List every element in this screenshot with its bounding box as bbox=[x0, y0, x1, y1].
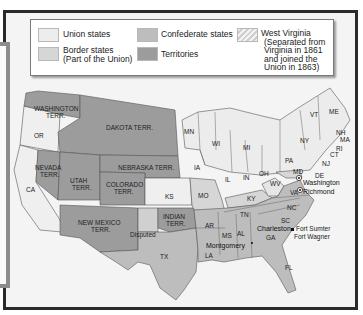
label-tn: TN bbox=[240, 211, 249, 218]
label-or: OR bbox=[34, 132, 44, 139]
label-fort-wagner: Fort Wagner bbox=[294, 233, 331, 241]
label-new-mexico-terr-2: TERR. bbox=[91, 226, 111, 233]
label-ga: GA bbox=[266, 234, 276, 241]
label-nevada-terr-2: TERR. bbox=[40, 171, 60, 178]
label-colorado-terr-2: TERR. bbox=[114, 188, 134, 195]
label-md: MD bbox=[293, 168, 303, 175]
us-map-1861: WASHINGTON TERR. DAKOTA TERR. NEBRASKA T… bbox=[0, 0, 363, 315]
label-fort-sumter: Fort Sumter bbox=[296, 225, 331, 232]
label-ia: IA bbox=[194, 164, 201, 171]
label-ca: CA bbox=[26, 186, 36, 193]
label-richmond-city: Richmond bbox=[303, 188, 335, 195]
label-il: IL bbox=[225, 176, 231, 183]
label-nebraska-terr: NEBRASKA TERR. bbox=[118, 164, 174, 171]
label-dakota-terr: DAKOTA TERR. bbox=[106, 124, 153, 131]
label-tx: TX bbox=[160, 253, 169, 260]
label-la: LA bbox=[205, 252, 214, 259]
label-ma: MA bbox=[340, 136, 350, 143]
label-washington-terr: WASHINGTON bbox=[34, 105, 79, 112]
label-pa: PA bbox=[285, 157, 294, 164]
label-nj: NJ bbox=[322, 160, 330, 167]
label-ms: MS bbox=[222, 232, 232, 239]
label-washington-city: Washington bbox=[303, 179, 340, 187]
label-colorado-terr: COLORADO bbox=[106, 181, 143, 188]
label-ct: CT bbox=[330, 151, 339, 158]
fort-marker-icon bbox=[291, 228, 294, 231]
label-utah-terr-2: TERR. bbox=[72, 184, 92, 191]
label-mo: MO bbox=[198, 192, 208, 199]
label-charleston-city: Charleston bbox=[257, 225, 291, 232]
label-oh: OH bbox=[259, 170, 269, 177]
label-al: AL bbox=[237, 230, 245, 237]
label-de: DE bbox=[315, 172, 325, 179]
label-sc: SC bbox=[281, 217, 290, 224]
utah-territory bbox=[58, 152, 100, 200]
label-disputed: Disputed bbox=[130, 231, 156, 239]
label-mi: MI bbox=[243, 144, 250, 151]
label-indian-terr-2: TERR. bbox=[166, 220, 186, 227]
label-fl: FL bbox=[285, 264, 293, 271]
state-ks bbox=[145, 178, 192, 205]
label-ks: KS bbox=[165, 193, 174, 200]
label-wi: WI bbox=[212, 140, 220, 147]
label-washington-terr-2: TERR. bbox=[46, 112, 66, 119]
label-ny: NY bbox=[300, 137, 310, 144]
label-utah-terr: UTAH bbox=[70, 177, 88, 184]
label-nc: NC bbox=[287, 204, 297, 211]
label-montgomery-city: Montgomery bbox=[206, 242, 245, 250]
label-new-mexico-terr: NEW MEXICO bbox=[78, 219, 121, 226]
disputed-area bbox=[138, 208, 158, 232]
label-indian-terr: INDIAN bbox=[163, 213, 185, 220]
label-me: ME bbox=[329, 108, 339, 115]
label-nh: NH bbox=[336, 129, 346, 136]
label-mn: MN bbox=[184, 128, 194, 135]
city-dot-icon bbox=[251, 242, 253, 244]
label-in: IN bbox=[243, 174, 250, 181]
label-vt: VT bbox=[310, 111, 318, 118]
label-nevada-terr: NEVADA bbox=[35, 164, 62, 171]
label-ar: AR bbox=[205, 222, 214, 229]
label-wv: WV bbox=[270, 180, 281, 187]
label-ky: KY bbox=[247, 195, 256, 202]
